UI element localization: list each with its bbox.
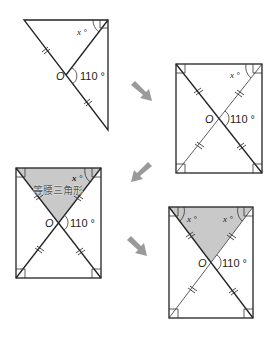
angle-110-label: 110 °	[80, 70, 105, 82]
figure-1-triangle: x ° O 110 °	[24, 20, 108, 130]
center-o-label: O	[56, 70, 65, 82]
center-o-label: O	[205, 113, 214, 125]
angle-x-label-left: x °	[186, 214, 197, 224]
arrow-down-right-icon	[127, 236, 147, 256]
angle-110-arc	[64, 215, 68, 230]
angle-110-arc	[72, 68, 77, 84]
angle-x-arc	[246, 64, 251, 78]
figure-2-rectangle: x ° O 110 °	[176, 64, 262, 173]
angle-x-label: x °	[76, 27, 87, 37]
arrow-down-left-icon	[131, 162, 152, 182]
center-o-label: O	[198, 257, 207, 269]
isosceles-triangle-label: 等腰三角形	[33, 184, 83, 196]
figure-4-rectangle: x ° x ° O 110 °	[169, 207, 253, 318]
angle-x-arc	[93, 20, 99, 32]
arrow-down-right-icon	[131, 81, 152, 101]
angle-110-label: 110 °	[70, 217, 95, 229]
figure-3-rectangle: x ° 等腰三角形 O 110 °	[16, 168, 101, 278]
diagram-canvas: x ° O 110 ° x ° O 110 °	[0, 0, 276, 338]
angle-x-label-right: x °	[222, 214, 233, 224]
center-o-label: O	[45, 217, 54, 229]
angle-110-label: 110 °	[222, 257, 247, 269]
angle-110-label: 110 °	[230, 113, 255, 125]
angle-x-label: x °	[71, 173, 83, 183]
angle-x-label: x °	[229, 70, 240, 80]
angle-110-arc	[225, 111, 229, 126]
angle-110-arc	[217, 255, 221, 270]
shaded-isosceles-triangle	[169, 207, 253, 262]
